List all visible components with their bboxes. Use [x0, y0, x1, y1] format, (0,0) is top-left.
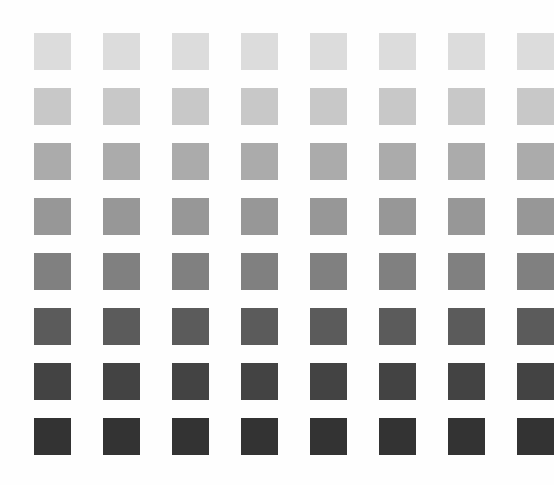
color-swatch — [34, 33, 71, 70]
color-swatch — [172, 253, 209, 290]
color-swatch — [241, 143, 278, 180]
color-swatch — [517, 143, 554, 180]
color-swatch — [448, 88, 485, 125]
color-swatch — [517, 363, 554, 400]
color-swatch — [34, 143, 71, 180]
swatch-row — [0, 198, 549, 236]
color-swatch — [103, 253, 140, 290]
swatch-row — [0, 88, 549, 126]
swatch-row — [0, 143, 549, 181]
swatch-row — [0, 363, 549, 401]
color-swatch — [310, 418, 347, 455]
color-swatch — [172, 308, 209, 345]
color-swatch — [241, 33, 278, 70]
color-swatch — [517, 253, 554, 290]
color-swatch — [241, 418, 278, 455]
color-swatch — [310, 143, 347, 180]
color-swatch — [310, 253, 347, 290]
color-swatch — [517, 33, 554, 70]
color-swatch — [310, 88, 347, 125]
swatch-row — [0, 253, 549, 291]
color-swatch — [379, 253, 416, 290]
color-swatch — [310, 33, 347, 70]
color-swatch — [241, 88, 278, 125]
swatch-row — [0, 418, 549, 456]
color-swatch — [34, 253, 71, 290]
color-swatch — [103, 363, 140, 400]
color-swatch — [379, 308, 416, 345]
color-swatch — [379, 363, 416, 400]
swatch-row — [0, 308, 549, 346]
color-swatch — [172, 363, 209, 400]
color-swatch — [310, 363, 347, 400]
color-swatch — [448, 418, 485, 455]
color-swatch — [241, 308, 278, 345]
color-swatch — [448, 33, 485, 70]
color-swatch — [517, 418, 554, 455]
color-swatch — [103, 33, 140, 70]
swatch-row — [0, 33, 549, 71]
color-swatch — [103, 143, 140, 180]
color-swatch — [241, 363, 278, 400]
color-swatch — [34, 198, 71, 235]
color-swatch — [517, 88, 554, 125]
color-swatch — [172, 418, 209, 455]
color-swatch — [448, 308, 485, 345]
color-swatch — [379, 88, 416, 125]
color-swatch — [103, 198, 140, 235]
color-swatch — [517, 198, 554, 235]
color-swatch — [172, 143, 209, 180]
color-swatch — [34, 88, 71, 125]
color-swatch — [310, 198, 347, 235]
color-swatch — [34, 418, 71, 455]
color-swatch — [241, 198, 278, 235]
color-swatch — [172, 33, 209, 70]
color-swatch — [310, 308, 347, 345]
color-swatch — [379, 33, 416, 70]
color-swatch — [517, 308, 554, 345]
color-swatch — [103, 88, 140, 125]
color-swatch — [379, 198, 416, 235]
color-swatch — [379, 143, 416, 180]
color-swatch — [103, 418, 140, 455]
color-swatch — [448, 363, 485, 400]
color-swatch — [172, 198, 209, 235]
color-swatch — [379, 418, 416, 455]
color-swatch — [241, 253, 278, 290]
color-swatch — [34, 308, 71, 345]
color-swatch — [448, 198, 485, 235]
color-swatch — [172, 88, 209, 125]
color-swatch — [34, 363, 71, 400]
color-swatch — [103, 308, 140, 345]
color-swatch — [448, 143, 485, 180]
color-swatch — [448, 253, 485, 290]
